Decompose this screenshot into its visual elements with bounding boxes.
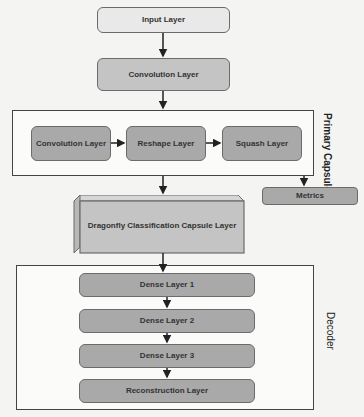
connector-arrows xyxy=(0,0,364,417)
